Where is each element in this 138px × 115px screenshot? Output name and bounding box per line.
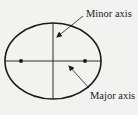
minor-axis-arrow bbox=[57, 16, 83, 37]
focus-right-point bbox=[83, 59, 87, 63]
major-axis-label: Major axis bbox=[90, 91, 135, 102]
focus-left-point bbox=[19, 59, 23, 63]
major-axis-arrow bbox=[69, 66, 89, 88]
minor-axis-label: Minor axis bbox=[86, 9, 132, 20]
